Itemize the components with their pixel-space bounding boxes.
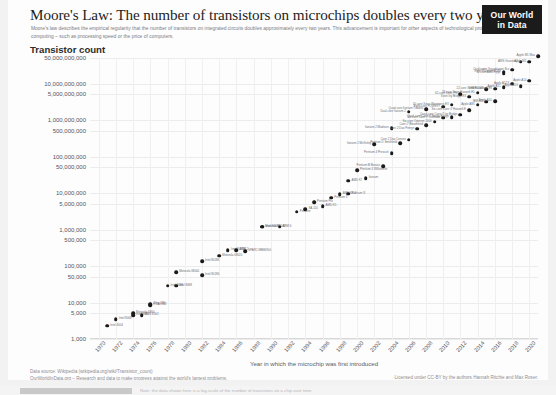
y-axis-tick-label: 50,000,000: [56, 164, 86, 170]
x-gridline: [236, 58, 237, 339]
data-point-label: Apple A11: [488, 85, 501, 88]
data-point[interactable]: [114, 317, 118, 321]
x-gridline: [202, 58, 203, 339]
data-point[interactable]: [433, 120, 437, 124]
y-axis-title: Transistor count: [30, 44, 105, 55]
data-point[interactable]: [131, 312, 135, 316]
x-axis-tick-label: 1972: [111, 340, 124, 353]
data-point-label: Qualcomm Snapdragon 8cx: [473, 68, 509, 71]
data-point[interactable]: [476, 91, 480, 95]
x-gridline: [133, 58, 134, 339]
x-gridline: [443, 58, 444, 339]
x-axis-tick-label: 1980: [180, 340, 193, 353]
footer-data-source: Data source: Wikipedia (wikipedia.org/wi…: [30, 368, 285, 375]
data-point[interactable]: [304, 207, 308, 211]
x-axis-tick-label: 1990: [266, 340, 279, 353]
x-axis-tick-label: 2014: [473, 340, 486, 353]
data-point[interactable]: [398, 142, 402, 146]
data-point[interactable]: [450, 103, 454, 107]
x-gridline: [460, 58, 461, 339]
data-point[interactable]: [235, 248, 239, 252]
x-axis-tick-label: 2002: [369, 340, 382, 353]
data-point[interactable]: [467, 95, 471, 99]
data-point-label: 10-core Xeon Westmere-EX: [413, 103, 449, 106]
data-point[interactable]: [493, 99, 497, 103]
x-axis-tick-label: 2006: [404, 340, 417, 353]
data-point[interactable]: [312, 201, 316, 205]
data-point[interactable]: [226, 248, 230, 252]
data-point[interactable]: [347, 179, 351, 183]
y-gridline: [90, 240, 538, 241]
data-point[interactable]: [200, 260, 204, 264]
y-gridline: [90, 193, 538, 194]
data-point-label: Core 2 Duo Penryn: [390, 127, 415, 130]
data-point[interactable]: [355, 168, 359, 172]
x-gridline: [99, 58, 100, 339]
data-point[interactable]: [390, 151, 394, 155]
data-point[interactable]: [424, 123, 428, 127]
y-axis-tick-label: 5,000,000: [59, 201, 86, 207]
data-point[interactable]: [174, 284, 178, 288]
x-axis-tick-label: 2016: [490, 340, 503, 353]
x-axis-title: Year in which the microchip was first in…: [90, 360, 538, 367]
y-axis-tick-label: 500,000,000: [53, 128, 86, 134]
page-title: Moore's Law: The number of transistors o…: [30, 6, 480, 24]
data-point[interactable]: [519, 84, 523, 88]
footer-source: Data source: Wikipedia (wikipedia.org/wi…: [30, 368, 285, 380]
data-point[interactable]: [149, 302, 153, 306]
data-point-label: Pentium M Banias: [356, 165, 379, 168]
data-point-label: Itanium 2 McKinley: [347, 142, 371, 145]
data-point[interactable]: [459, 113, 463, 117]
screenshot-root: Moore's Law: The number of transistors o…: [0, 0, 556, 395]
data-point[interactable]: [467, 108, 471, 112]
data-point[interactable]: [243, 250, 247, 254]
data-point[interactable]: [261, 225, 265, 229]
data-point[interactable]: [347, 192, 351, 196]
x-gridline: [529, 58, 530, 339]
data-point-label: Itanium: [369, 177, 378, 180]
data-point[interactable]: [295, 210, 299, 214]
footer-license: Licensed under CC-BY by the authors Hann…: [395, 375, 538, 380]
x-gridline: [426, 58, 427, 339]
x-gridline: [219, 58, 220, 339]
data-point-label: Apple A8X: [461, 103, 475, 106]
data-point[interactable]: [200, 274, 204, 278]
data-point-label: Apple A13: [505, 84, 518, 87]
chart-subtitle: Moore's law describes the empirical regu…: [31, 25, 501, 41]
data-point[interactable]: [278, 225, 282, 229]
data-point[interactable]: [338, 192, 342, 196]
x-axis-tick-label: 1974: [128, 340, 141, 353]
data-point[interactable]: [321, 205, 325, 209]
data-point[interactable]: [407, 138, 411, 142]
x-gridline: [409, 58, 410, 339]
data-point[interactable]: [416, 127, 420, 131]
x-axis-tick-label: 2004: [386, 340, 399, 353]
data-point[interactable]: [217, 254, 221, 258]
footer-owid-line[interactable]: OurWorldInData.org – Research and data t…: [30, 375, 285, 380]
data-point[interactable]: [476, 103, 480, 107]
data-point[interactable]: [381, 164, 385, 168]
data-point[interactable]: [364, 177, 368, 181]
y-gridline: [90, 120, 538, 121]
owid-logo-line1: Our World: [491, 10, 534, 20]
data-point[interactable]: [174, 270, 178, 274]
y-axis-tick-label: 10,000: [68, 300, 86, 306]
data-point[interactable]: [528, 60, 532, 64]
data-point-label: Quad-core Core i7 Ivy Bridge: [420, 113, 457, 116]
data-point[interactable]: [528, 79, 532, 83]
x-gridline: [150, 58, 151, 339]
data-point-label: Apple A10: [479, 99, 492, 102]
data-point[interactable]: [140, 313, 144, 317]
owid-logo[interactable]: Our World in Data: [482, 5, 542, 34]
x-gridline: [357, 58, 358, 339]
y-gridline: [90, 131, 538, 132]
x-axis-tick-label: 2010: [438, 340, 451, 353]
data-point[interactable]: [536, 54, 540, 58]
data-point-label: Xeon Ivy Bridge-EX: [441, 95, 466, 98]
data-point[interactable]: [166, 284, 170, 288]
data-point[interactable]: [510, 68, 514, 72]
data-point-label: Itanium 2 Madison: [365, 127, 389, 130]
y-axis-tick-label: 50,000: [68, 274, 86, 280]
data-point[interactable]: [105, 324, 109, 328]
data-point[interactable]: [329, 196, 333, 200]
